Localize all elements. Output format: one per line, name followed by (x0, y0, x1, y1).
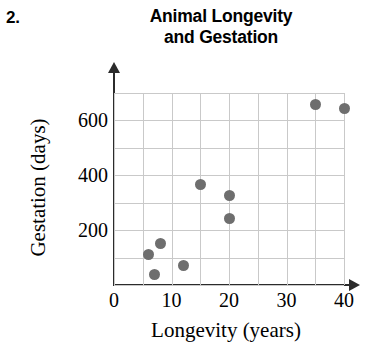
gridline-horizontal (114, 230, 344, 231)
data-point (224, 190, 235, 201)
chart-title-line-2: and Gestation (96, 27, 346, 48)
data-point (339, 103, 350, 114)
gridline-horizontal (114, 93, 344, 94)
gridline-horizontal (114, 203, 344, 204)
y-tick-label: 600 (50, 109, 108, 131)
gridline-horizontal (114, 175, 344, 176)
gridline-vertical (258, 93, 259, 285)
gridline-vertical (114, 93, 115, 285)
x-tick-label: 10 (152, 289, 192, 312)
plot-area (114, 93, 344, 285)
data-point (178, 260, 189, 271)
x-axis-label: Longevity (years) (96, 318, 356, 343)
gridline-vertical (315, 93, 316, 285)
y-axis-arrow-icon (108, 62, 120, 73)
chart-title: Animal Longevity and Gestation (96, 6, 346, 48)
data-point (143, 249, 154, 260)
data-point (310, 99, 321, 110)
x-tick-label: 30 (267, 289, 307, 312)
gridline-horizontal (114, 120, 344, 121)
x-tick-label: 20 (209, 289, 249, 312)
gridline-horizontal (114, 285, 344, 286)
data-point (224, 213, 235, 224)
gridline-vertical (287, 93, 288, 285)
y-tick-label: 200 (50, 219, 108, 241)
gridline-vertical (344, 93, 345, 285)
data-point (195, 179, 206, 190)
chart-title-line-1: Animal Longevity (96, 6, 346, 27)
gridline-vertical (229, 93, 230, 285)
problem-number: 2. (6, 8, 20, 28)
x-tick-label: 40 (324, 289, 364, 312)
y-axis-label: Gestation (days) (26, 88, 51, 288)
data-point (155, 238, 166, 249)
y-tick-label: 400 (50, 164, 108, 186)
gridline-horizontal (114, 148, 344, 149)
data-point (149, 269, 160, 280)
y-tick-labels: 200400600 (46, 0, 108, 363)
gridline-vertical (172, 93, 173, 285)
